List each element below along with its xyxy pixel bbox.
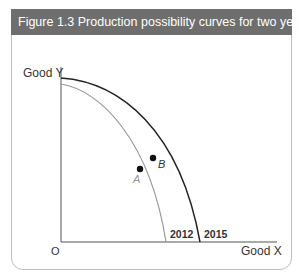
curve-2012 — [61, 84, 166, 242]
y-axis-label: Good Y — [23, 66, 63, 80]
curve-2012-label: 2012 — [170, 228, 194, 240]
curve-2015-label: 2015 — [204, 228, 228, 240]
point-a — [137, 166, 143, 172]
point-b — [150, 155, 156, 161]
x-axis-label: Good X — [241, 244, 282, 258]
origin-label: O — [51, 245, 60, 257]
curve-2015 — [61, 78, 200, 242]
ppc-chart: Good Y Good X O 2012 2015 A B — [0, 0, 304, 278]
point-b-label: B — [158, 158, 165, 170]
point-a-label: A — [132, 173, 140, 185]
